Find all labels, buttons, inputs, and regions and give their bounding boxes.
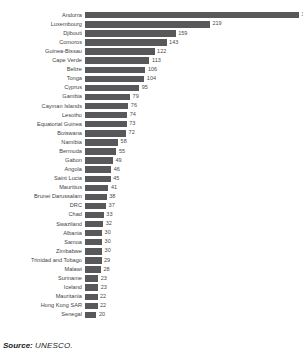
bar xyxy=(85,185,108,191)
bar-category-label: Botswana xyxy=(0,131,85,137)
bar xyxy=(85,21,210,27)
bar-track: 76 xyxy=(85,102,303,111)
bar-row: Tonga104 xyxy=(0,75,303,84)
bar-category-label: Samoa xyxy=(0,240,85,246)
bar xyxy=(85,266,101,272)
bar-track: 79 xyxy=(85,93,303,102)
bar-row: Comoros143 xyxy=(0,38,303,47)
bar xyxy=(85,157,113,163)
bar-category-label: Albania xyxy=(0,231,85,237)
bar xyxy=(85,303,98,309)
bar-track: 74 xyxy=(85,111,303,120)
bar-row: Djibouti159 xyxy=(0,29,303,38)
bar-category-label: Chad xyxy=(0,212,85,218)
bar-category-label: Senegal xyxy=(0,312,85,318)
bar xyxy=(85,121,127,127)
bar-row: Brunei Darussalam38 xyxy=(0,193,303,202)
bar-value-label: 106 xyxy=(148,67,157,73)
bar xyxy=(85,294,98,300)
bar-track: 375 xyxy=(85,11,303,20)
bar-category-label: Guinea-Bissau xyxy=(0,49,85,55)
bar-value-label: 45 xyxy=(113,176,119,182)
bar xyxy=(85,76,144,82)
bar-value-label: 30 xyxy=(105,248,111,254)
bar-category-label: Malawi xyxy=(0,267,85,273)
bar-track: 38 xyxy=(85,193,303,202)
source-note: Source: UNESCO. xyxy=(3,341,73,350)
bar-value-label: 95 xyxy=(142,85,148,91)
bar xyxy=(85,166,111,172)
bar-category-label: Cayman Islands xyxy=(0,104,85,110)
bar-category-label: Zimbabwe xyxy=(0,249,85,255)
bar-row: Hong Kong SAR22 xyxy=(0,302,303,311)
bar xyxy=(85,284,98,290)
bar-row: Andorra375 xyxy=(0,11,303,20)
bar-row: Trinidad and Tobago29 xyxy=(0,256,303,265)
bar-row: Guinea-Bissau122 xyxy=(0,47,303,56)
bar-row: Mauritius41 xyxy=(0,183,303,192)
bar-category-label: Luxembourg xyxy=(0,22,85,28)
bar-category-label: Iceland xyxy=(0,285,85,291)
bar-category-label: Comoros xyxy=(0,40,85,46)
bar-value-label: 58 xyxy=(121,139,127,145)
bar xyxy=(85,239,102,245)
bar-value-label: 113 xyxy=(152,58,161,64)
bar-row: Malawi28 xyxy=(0,265,303,274)
bar-row: DRC37 xyxy=(0,202,303,211)
bar xyxy=(85,67,145,73)
bar-category-label: Saint Lucia xyxy=(0,176,85,182)
bar-track: 219 xyxy=(85,20,303,29)
bar-track: 106 xyxy=(85,65,303,74)
bar-value-label: 74 xyxy=(130,112,136,118)
bar xyxy=(85,148,116,154)
bar-category-label: Swaziland xyxy=(0,222,85,228)
chart-title xyxy=(0,0,303,3)
bar-value-label: 55 xyxy=(119,149,125,155)
bar-value-label: 159 xyxy=(178,31,187,37)
chart-container: Andorra375Luxembourg219Djibouti159Comoro… xyxy=(0,0,303,358)
bar-track: 45 xyxy=(85,174,303,183)
bar-row: Suriname23 xyxy=(0,274,303,283)
bar-category-label: Suriname xyxy=(0,276,85,282)
bar-value-label: 72 xyxy=(129,130,135,136)
bar-category-label: Mauritius xyxy=(0,185,85,191)
bar-row: Zimbabwe30 xyxy=(0,247,303,256)
bar xyxy=(85,212,104,218)
bar-row: Gabon49 xyxy=(0,156,303,165)
bar-row: Senegal20 xyxy=(0,311,303,320)
bar-value-label: 73 xyxy=(129,121,135,127)
bar-value-label: 49 xyxy=(115,158,121,164)
bar xyxy=(85,194,107,200)
bar-track: 113 xyxy=(85,56,303,65)
bar-track: 20 xyxy=(85,311,303,320)
bar xyxy=(85,275,98,281)
bar-value-label: 33 xyxy=(106,212,112,218)
bar xyxy=(85,103,128,109)
bar-row: Bermuda55 xyxy=(0,147,303,156)
bar-category-label: Lesotho xyxy=(0,113,85,119)
bar-track: 30 xyxy=(85,229,303,238)
bar xyxy=(85,12,299,18)
bar-row: Lesotho74 xyxy=(0,111,303,120)
bar-category-label: Gambia xyxy=(0,94,85,100)
bar-row: Botswana72 xyxy=(0,129,303,138)
bar-track: 46 xyxy=(85,165,303,174)
bar-category-label: Angola xyxy=(0,167,85,173)
bar-track: 37 xyxy=(85,202,303,211)
bar-category-label: Gabon xyxy=(0,158,85,164)
bar-value-label: 41 xyxy=(111,185,117,191)
bar-row: Albania30 xyxy=(0,229,303,238)
source-label: Source: xyxy=(3,341,33,350)
bar-row: Belize106 xyxy=(0,65,303,74)
bar-track: 55 xyxy=(85,147,303,156)
bar-value-label: 46 xyxy=(114,167,120,173)
bar-row: Equatorial Guinea73 xyxy=(0,120,303,129)
bar-track: 143 xyxy=(85,38,303,47)
bar xyxy=(85,85,139,91)
bar-track: 41 xyxy=(85,183,303,192)
bar-value-label: 23 xyxy=(101,285,107,291)
bar-track: 72 xyxy=(85,129,303,138)
bar xyxy=(85,203,106,209)
bar-row: Saint Lucia45 xyxy=(0,174,303,183)
bar-row: Namibia58 xyxy=(0,138,303,147)
